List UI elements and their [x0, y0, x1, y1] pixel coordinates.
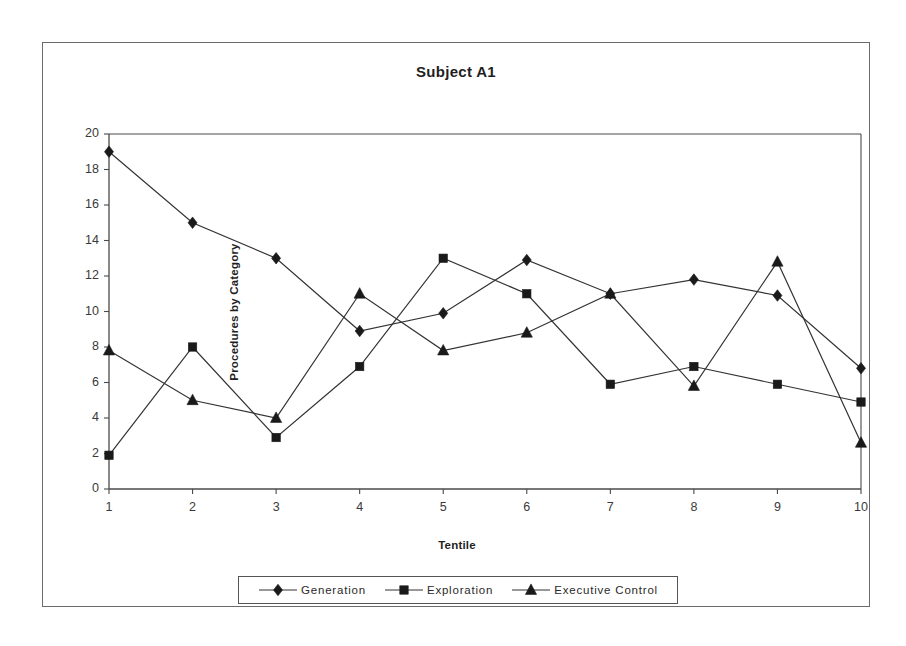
- data-point-marker: [521, 327, 532, 337]
- legend-triangle-icon: [511, 583, 551, 597]
- data-point-marker: [188, 217, 197, 229]
- data-point-marker: [855, 437, 866, 447]
- chart-plot-svg: [109, 134, 861, 489]
- chart-title: Subject A1: [43, 63, 869, 80]
- x-axis-tick-label: 3: [261, 500, 291, 514]
- x-axis-tick-label: 4: [345, 500, 375, 514]
- data-point-marker: [522, 254, 531, 266]
- legend-label: Exploration: [427, 584, 493, 596]
- x-axis-tick-label: 9: [762, 500, 792, 514]
- x-axis-tick-label: 2: [178, 500, 208, 514]
- data-point-marker: [773, 290, 782, 302]
- data-point-marker: [772, 256, 783, 266]
- data-point-marker: [606, 380, 614, 388]
- data-point-marker: [689, 274, 698, 286]
- y-axis-tick-label: 16: [73, 197, 99, 211]
- data-point-marker: [439, 307, 448, 319]
- y-axis-tick-label: 10: [73, 304, 99, 318]
- y-axis-tick-label: 20: [73, 126, 99, 140]
- x-axis-tick-label: 8: [679, 500, 709, 514]
- y-axis-tick-label: 2: [73, 446, 99, 460]
- legend-entry[interactable]: Generation: [258, 583, 366, 597]
- chart-frame: Subject A1 Procedures by Category 024681…: [42, 42, 870, 607]
- legend-label: Executive Control: [554, 584, 658, 596]
- data-point-marker: [523, 290, 531, 298]
- x-axis-tick-label: 5: [428, 500, 458, 514]
- y-axis-tick-label: 12: [73, 268, 99, 282]
- x-axis-tick-label: 10: [846, 500, 876, 514]
- legend-diamond-icon: [258, 583, 298, 597]
- y-axis-tick-label: 18: [73, 162, 99, 176]
- y-axis-tick-label: 4: [73, 410, 99, 424]
- y-axis-tick-label: 8: [73, 339, 99, 353]
- x-axis-tick-label: 7: [595, 500, 625, 514]
- data-point-marker: [354, 288, 365, 298]
- data-point-marker: [105, 451, 113, 459]
- data-point-marker: [690, 362, 698, 370]
- data-point-marker: [857, 398, 865, 406]
- data-point-marker: [439, 254, 447, 262]
- data-point-marker: [773, 380, 781, 388]
- legend-entry[interactable]: Exploration: [384, 583, 493, 597]
- plot-area: Procedures by Category 02468101214161820…: [109, 134, 861, 489]
- data-point-marker: [355, 362, 363, 370]
- data-point-marker: [187, 394, 198, 404]
- legend-entry[interactable]: Executive Control: [511, 583, 658, 597]
- data-point-marker: [104, 146, 113, 158]
- data-point-marker: [355, 325, 364, 337]
- chart-legend: GenerationExplorationExecutive Control: [238, 576, 678, 604]
- x-axis-tick-label: 6: [512, 500, 542, 514]
- y-axis-tick-label: 0: [73, 481, 99, 495]
- legend-label: Generation: [301, 584, 366, 596]
- data-point-marker: [103, 344, 114, 354]
- legend-square-icon: [384, 583, 424, 597]
- data-point-marker: [272, 433, 280, 441]
- data-point-marker: [272, 252, 281, 264]
- data-point-marker: [188, 343, 196, 351]
- y-axis-tick-label: 6: [73, 375, 99, 389]
- x-axis-tick-label: 1: [94, 500, 124, 514]
- data-point-marker: [856, 363, 865, 375]
- x-axis-title: Tentile: [43, 539, 871, 551]
- y-axis-tick-label: 14: [73, 233, 99, 247]
